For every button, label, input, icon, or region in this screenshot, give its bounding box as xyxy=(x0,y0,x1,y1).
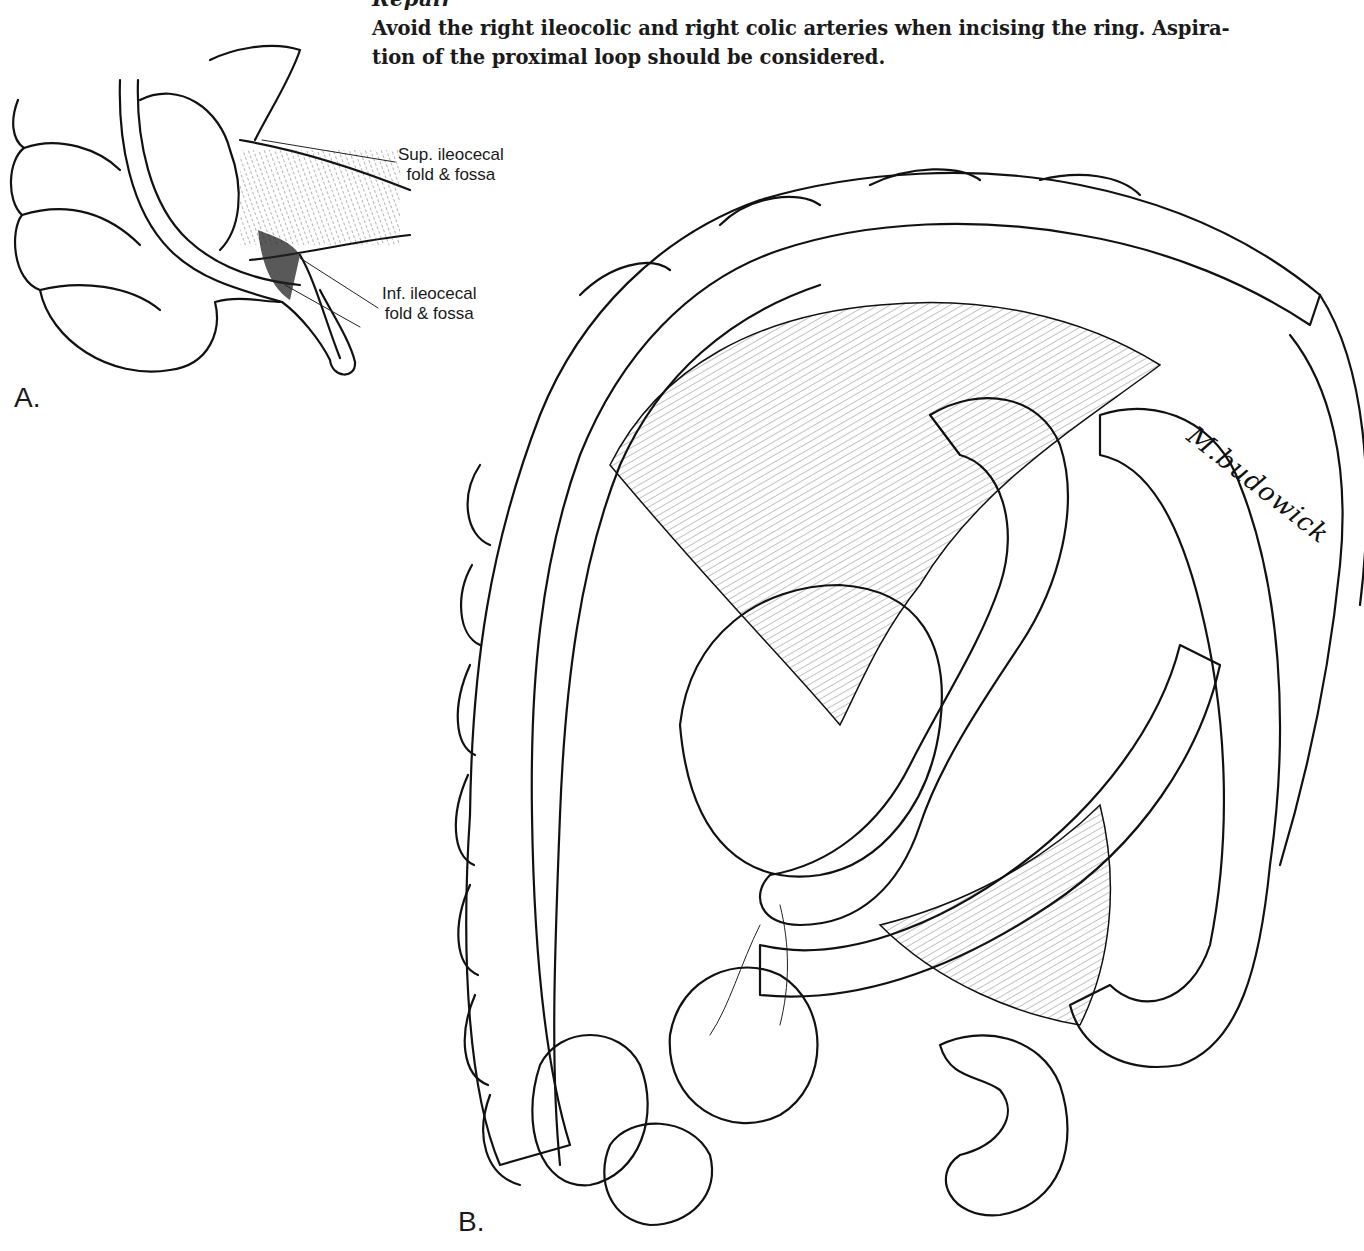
figure-b-illustration xyxy=(460,165,1360,1245)
instruction-paragraph: Avoid the right ileocolic and right coli… xyxy=(372,14,1352,72)
paragraph-line-1: Avoid the right ileocolic and right coli… xyxy=(372,14,1352,43)
paragraph-line-2: tion of the proximal loop should be cons… xyxy=(372,43,1352,72)
figure-a-illustration xyxy=(0,40,420,400)
section-heading-partial: Repair xyxy=(372,0,453,11)
figure-b-label: B. xyxy=(458,1206,484,1238)
figure-a-label: A. xyxy=(14,382,40,414)
callout-sup-line1: Sup. ileocecal xyxy=(398,145,504,165)
